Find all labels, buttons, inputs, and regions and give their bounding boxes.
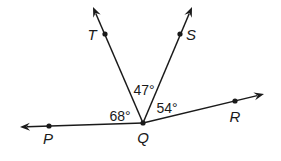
point-label-T: T — [87, 26, 98, 43]
angle-diagram: PTSRQ 68°47°54° — [0, 0, 281, 161]
point-P-dot — [46, 123, 51, 128]
ray-QT-line — [96, 13, 143, 123]
point-R-dot — [232, 98, 237, 103]
point-label-R: R — [230, 108, 241, 125]
vertex-Q-dot — [140, 120, 145, 125]
point-label-S: S — [186, 26, 196, 43]
point-S-dot — [177, 31, 182, 36]
point-label-P: P — [43, 130, 53, 147]
angle-TQS-label: 47° — [133, 82, 154, 98]
points — [46, 31, 237, 128]
rays — [20, 7, 264, 131]
angle-PQT-label: 68° — [109, 108, 130, 124]
point-T-dot — [102, 31, 107, 36]
vertex-label: Q — [137, 129, 149, 146]
angle-SQR-label: 54° — [156, 100, 177, 116]
